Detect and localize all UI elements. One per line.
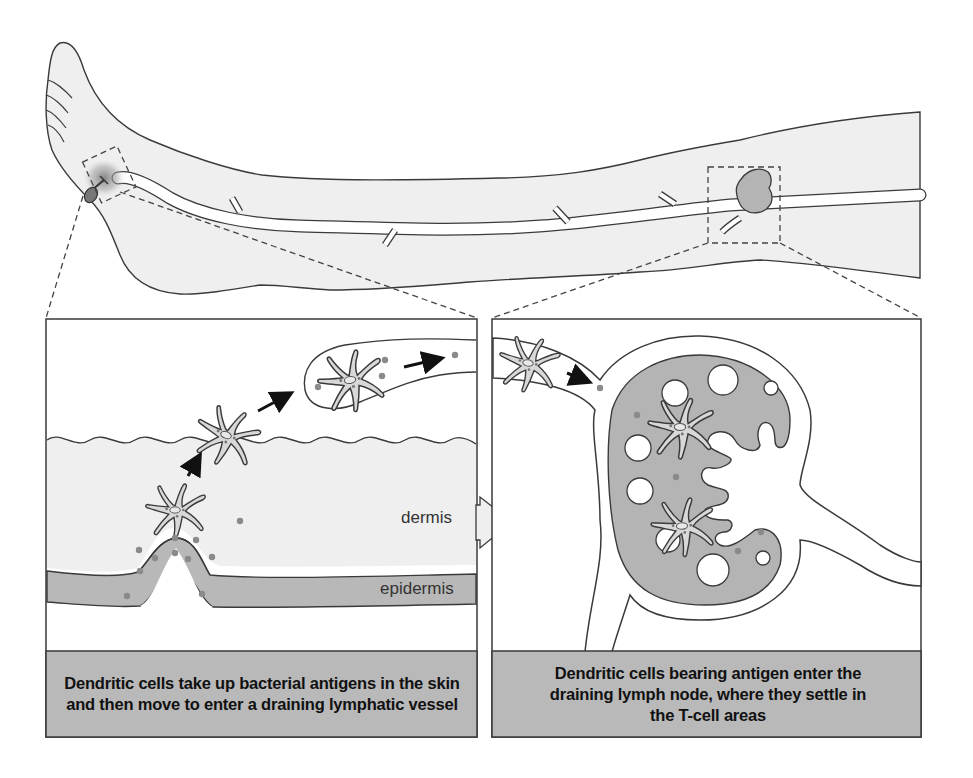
leg-illustration bbox=[46, 42, 921, 318]
leg-outline bbox=[46, 42, 920, 294]
dermis-region bbox=[47, 437, 476, 571]
right-panel-caption: Dendritic cells bearing antigen enter th… bbox=[540, 652, 876, 736]
epidermis-label: epidermis bbox=[380, 579, 454, 599]
dermis-label: dermis bbox=[401, 508, 452, 528]
left-panel-caption: Dendritic cells take up bacterial antige… bbox=[60, 652, 464, 736]
